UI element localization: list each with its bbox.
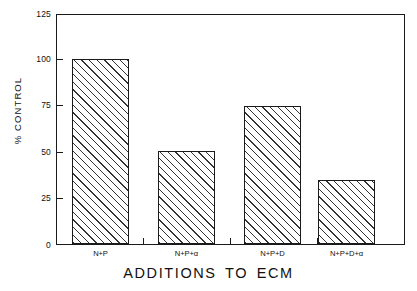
y-tick-mark-75 [56,105,63,106]
y-tick-label-50: 50 [18,147,51,157]
y-tick-mark-50 [56,152,63,153]
bar-n-p-d [244,106,301,244]
x-category-label-n-p-d: N+P+D [243,249,302,258]
x-tick-mark-2 [230,238,231,245]
bar-n-p-d-alpha [318,180,375,244]
y-tick-mark-100 [56,59,63,60]
y-tick-label-75: 75 [18,100,51,110]
y-axis-title: % CONTROL [12,51,23,171]
y-tick-label-125: 125 [18,9,51,19]
y-tick-label-0: 0 [18,240,51,250]
bar-n-p [72,59,129,244]
bar-chart-figure: 125 100 75 50 25 0 N+P N+P+α N+P+D N+P+D… [0,0,417,291]
y-tick-mark-25 [56,198,63,199]
x-category-label-n-p-d-alpha: N+P+D+α [317,249,376,258]
x-category-label-n-p: N+P [71,249,130,258]
bar-n-p-alpha [158,151,215,244]
x-tick-mark-1 [143,238,144,245]
y-tick-label-100: 100 [18,54,51,64]
x-category-label-n-p-alpha: N+P+α [157,249,216,258]
x-axis-title: ADDITIONS TO ECM [0,265,417,281]
y-tick-label-25: 25 [18,193,51,203]
